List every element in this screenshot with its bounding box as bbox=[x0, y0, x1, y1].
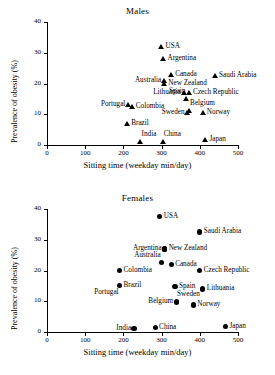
data-point-label: Australia bbox=[134, 252, 160, 259]
data-point-label: Lithuania bbox=[207, 285, 235, 292]
x-tick-label: 100 bbox=[71, 337, 99, 344]
y-tick bbox=[44, 301, 48, 302]
data-point-label: Saudi Arabia bbox=[204, 228, 241, 235]
y-tick-label: 40 bbox=[21, 18, 41, 25]
data-point-label: Belgium bbox=[190, 100, 215, 107]
data-point-marker bbox=[200, 110, 206, 115]
y-tick-label: 20 bbox=[21, 267, 41, 274]
data-point-marker bbox=[202, 137, 208, 142]
data-point-label: Canada bbox=[175, 261, 197, 268]
x-tick bbox=[238, 332, 239, 336]
data-point-marker bbox=[200, 286, 205, 291]
data-point-marker bbox=[191, 302, 196, 307]
data-point-marker bbox=[212, 73, 218, 78]
y-tick bbox=[44, 22, 48, 23]
y-tick bbox=[44, 114, 48, 115]
y-tick bbox=[44, 145, 48, 146]
data-point-label: Norway bbox=[197, 301, 220, 308]
y-axis-label: Prevalence of obesity (%) bbox=[10, 247, 19, 330]
chart-panel-females: Females0100200300400500010203040Prevalen… bbox=[0, 187, 275, 374]
x-tick bbox=[123, 145, 124, 149]
data-point-marker bbox=[159, 260, 164, 265]
y-tick-label: 30 bbox=[21, 236, 41, 243]
data-point-label: Czech Republic bbox=[193, 89, 239, 96]
data-point-label: Australia bbox=[135, 77, 161, 84]
data-point-marker bbox=[168, 72, 174, 77]
x-tick bbox=[200, 145, 201, 149]
data-point-label: Belgium bbox=[148, 298, 173, 305]
obesity-sitting-time-figure: Males0100200300400500010203040Prevalence… bbox=[0, 0, 275, 374]
y-tick-label: 40 bbox=[21, 205, 41, 212]
x-tick bbox=[123, 332, 124, 336]
data-point-marker bbox=[184, 110, 190, 115]
chart-title: Males bbox=[0, 6, 275, 16]
data-point-label: Spain bbox=[169, 88, 185, 95]
data-point-label: Sweden bbox=[162, 109, 185, 116]
x-axis-label: Sitting time (weekday min/day) bbox=[0, 347, 275, 357]
y-tick-label: 20 bbox=[21, 80, 41, 87]
x-tick-label: 200 bbox=[109, 150, 137, 157]
data-point-label: Norway bbox=[207, 109, 230, 116]
x-tick bbox=[238, 145, 239, 149]
x-tick-label: 0 bbox=[33, 337, 61, 344]
data-point-marker bbox=[174, 300, 179, 305]
y-tick bbox=[44, 209, 48, 210]
data-point-marker bbox=[169, 262, 174, 267]
data-point-label: Brazil bbox=[124, 282, 142, 289]
data-point-label: Saudi Arabia bbox=[219, 72, 256, 79]
x-tick bbox=[200, 332, 201, 336]
data-point-label: USA bbox=[166, 43, 180, 50]
data-point-marker bbox=[162, 246, 167, 251]
data-point-label: Japan bbox=[210, 136, 226, 143]
y-tick-label: 0 bbox=[21, 328, 41, 335]
chart-panel-males: Males0100200300400500010203040Prevalence… bbox=[0, 0, 275, 187]
data-point-marker bbox=[137, 139, 143, 144]
y-tick bbox=[44, 240, 48, 241]
x-tick-label: 0 bbox=[33, 150, 61, 157]
y-tick-label: 10 bbox=[21, 110, 41, 117]
data-point-marker bbox=[197, 268, 202, 273]
x-tick-label: 500 bbox=[224, 337, 252, 344]
x-tick-label: 300 bbox=[148, 337, 176, 344]
data-point-marker bbox=[124, 121, 130, 126]
y-axis-line bbox=[47, 209, 48, 332]
data-point-label: Argentina bbox=[168, 55, 197, 62]
y-tick-label: 0 bbox=[21, 141, 41, 148]
data-point-marker bbox=[158, 44, 164, 49]
x-axis-label: Sitting time (weekday min/day) bbox=[0, 160, 275, 170]
data-point-label: Japan bbox=[229, 323, 245, 330]
y-axis-label: Prevalence of obesity (%) bbox=[10, 60, 19, 143]
data-point-marker bbox=[183, 96, 189, 101]
data-point-marker bbox=[223, 324, 228, 329]
data-point-label: India bbox=[116, 325, 131, 332]
chart-title: Females bbox=[0, 193, 275, 203]
x-tick-label: 200 bbox=[109, 337, 137, 344]
data-point-label: New Zealand bbox=[169, 245, 208, 252]
data-point-marker bbox=[117, 268, 122, 273]
y-tick bbox=[44, 53, 48, 54]
data-point-label: Portugal bbox=[101, 101, 125, 108]
x-axis-line bbox=[47, 332, 238, 333]
y-axis-line bbox=[47, 22, 48, 145]
y-tick bbox=[44, 84, 48, 85]
data-point-marker bbox=[197, 229, 202, 234]
x-tick-label: 400 bbox=[186, 150, 214, 157]
data-point-marker bbox=[186, 90, 192, 95]
x-tick-label: 100 bbox=[71, 150, 99, 157]
x-tick bbox=[47, 145, 48, 149]
x-tick-label: 400 bbox=[186, 337, 214, 344]
data-point-label: Sweden bbox=[177, 291, 200, 298]
data-point-label: Czech Republic bbox=[204, 267, 250, 274]
data-point-label: China bbox=[164, 131, 181, 138]
x-tick bbox=[47, 332, 48, 336]
data-point-marker bbox=[160, 139, 166, 144]
data-point-label: Portugal bbox=[94, 289, 118, 296]
data-point-label: USA bbox=[164, 213, 178, 220]
y-tick-label: 30 bbox=[21, 49, 41, 56]
x-tick bbox=[162, 145, 163, 149]
x-axis-line bbox=[47, 145, 238, 146]
data-point-label: China bbox=[159, 324, 176, 331]
data-point-label: Canada bbox=[175, 71, 197, 78]
data-point-label: Colombia bbox=[136, 103, 164, 110]
data-point-marker bbox=[131, 326, 136, 331]
